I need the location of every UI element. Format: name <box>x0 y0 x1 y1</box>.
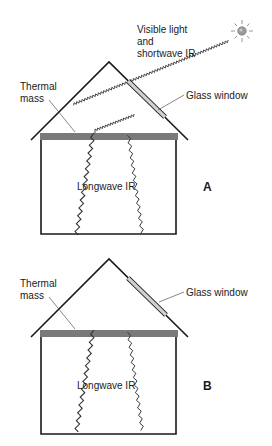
thermal-mass-b <box>40 330 178 337</box>
label-sunlight-line2: and <box>137 36 154 47</box>
sun-icon <box>231 20 253 42</box>
panel-b: Thermal mass Glass window Longwave IR B <box>20 259 248 434</box>
label-thermal-mass-line1: Thermal <box>20 81 57 92</box>
roof-a <box>31 62 188 140</box>
passive-solar-diagram: Visible light and shortwave IR Thermal m… <box>0 0 272 446</box>
label-sunlight-line3: shortwave IR <box>137 48 195 59</box>
roof-b <box>31 259 188 337</box>
thermal-mass-leader-a <box>49 100 75 132</box>
thermal-mass-leader-b <box>49 297 75 329</box>
label-glass-window: Glass window <box>186 90 248 101</box>
label-longwave-ir: Longwave IR <box>77 181 135 192</box>
panel-label-b: B <box>203 379 212 393</box>
glass-window-a <box>128 81 165 117</box>
label-thermal-mass-line1-b: Thermal <box>20 278 57 289</box>
label-glass-window-b: Glass window <box>186 287 248 298</box>
label-longwave-ir-b: Longwave IR <box>77 380 135 391</box>
label-thermal-mass-line2: mass <box>20 93 44 104</box>
incoming-shortwave-light-lower <box>95 114 134 133</box>
panel-label-a: A <box>203 180 212 194</box>
label-thermal-mass-line2-b: mass <box>20 290 44 301</box>
panel-a: Visible light and shortwave IR Thermal m… <box>20 20 253 235</box>
glass-window-b <box>128 278 166 315</box>
thermal-mass-a <box>40 133 178 140</box>
glass-window-leader-a <box>158 95 184 110</box>
label-sunlight-line1: Visible light <box>137 24 188 35</box>
glass-window-leader-b <box>159 292 184 302</box>
